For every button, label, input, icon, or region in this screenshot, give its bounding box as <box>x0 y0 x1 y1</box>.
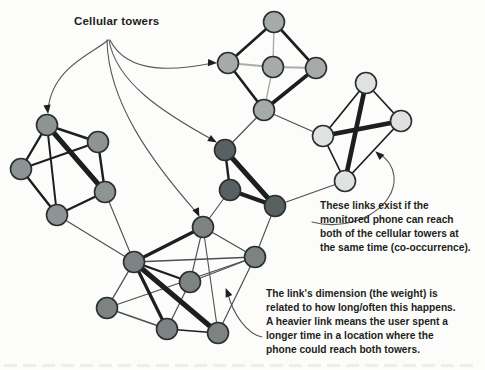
tower-node-GC <box>313 126 334 147</box>
tower-node-BM <box>180 272 201 293</box>
annotation-line: phone could reach both towers. <box>266 343 456 357</box>
network-figure: Cellular towers These links exist if the… <box>0 0 485 370</box>
annotation-line: both of the cellular towers at <box>320 227 471 241</box>
tower-node-LB <box>88 132 109 153</box>
tower-node-LE <box>47 205 68 226</box>
annotation-line: monitored phone can reach <box>320 213 471 227</box>
annotation-line: A heavier link means the user spent a <box>266 315 456 329</box>
edge-LB-LC <box>21 142 98 169</box>
tower-pointer-0-arrowhead <box>43 105 51 115</box>
tower-node-DB <box>220 180 241 201</box>
tower-node-GB <box>391 111 412 132</box>
tower-node-TB <box>218 53 239 74</box>
cellular-towers-label: Cellular towers <box>74 15 159 27</box>
tower-node-GD <box>335 171 356 192</box>
annotation-line: These links exist if the <box>320 199 471 213</box>
tower-node-TD <box>306 58 327 79</box>
tower-pointer-1-arrowhead <box>208 59 217 67</box>
tower-node-GA <box>356 73 377 94</box>
edge-BT-B2 <box>203 227 218 333</box>
tower-pointer-0-curve <box>48 40 108 110</box>
annotation-line: longer time in a location where the <box>266 329 456 343</box>
tower-pointer-3-curve <box>107 40 197 213</box>
link-weight-annotation: The link's dimension (the weight) is rel… <box>266 287 456 357</box>
edge-BH-BT <box>134 227 203 262</box>
tower-node-DA <box>215 140 236 161</box>
tower-node-DC <box>265 196 286 217</box>
annotation-leader-1-curve <box>228 294 262 337</box>
tower-node-LC <box>11 159 32 180</box>
annotation-line: the same time (co-occurrence). <box>320 241 471 255</box>
tower-node-TE <box>254 100 275 121</box>
tower-pointer-1-curve <box>110 40 213 68</box>
tower-pointer-2-curve <box>109 40 213 140</box>
cropped-caption-remnant <box>4 364 479 367</box>
cooccurrence-annotation: These links exist if the monitored phone… <box>320 199 471 255</box>
tower-node-B2 <box>208 323 229 344</box>
annotation-leader-1-arrowhead <box>222 287 232 298</box>
annotation-line: The link's dimension (the weight) is <box>266 287 456 301</box>
tower-node-TC <box>263 57 284 78</box>
tower-node-BR <box>245 247 266 268</box>
edge-LD-BH <box>105 192 134 262</box>
tower-node-TA <box>264 12 285 33</box>
annotation-line: related to how long/often this happens. <box>266 301 456 315</box>
tower-node-BT <box>193 217 214 238</box>
tower-node-B1 <box>157 319 178 340</box>
tower-node-BL <box>97 298 118 319</box>
tower-node-BH <box>124 252 145 273</box>
tower-node-LA <box>37 115 58 136</box>
edge-LE-BH <box>57 215 134 262</box>
tower-node-LD <box>95 182 116 203</box>
